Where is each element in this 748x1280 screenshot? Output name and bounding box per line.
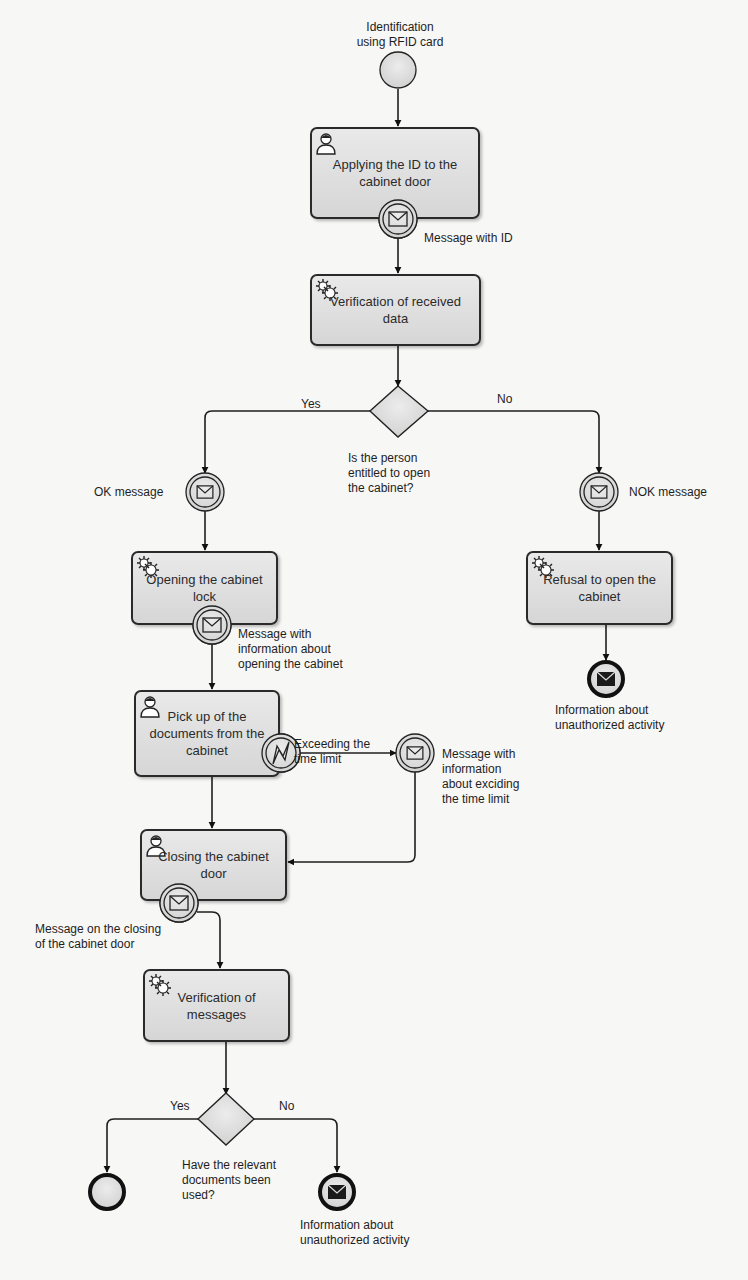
message-id-label: Message with ID [424,231,513,246]
task-apply-id[interactable]: Applying the ID to the cabinet door [310,127,480,219]
task-label: Applying the ID to the cabinet door [333,156,457,190]
flow-t6-to-t7 [197,912,220,968]
task-refusal[interactable]: Refusal to open the cabinet [526,551,673,625]
g2-yes-label: Yes [170,1099,190,1114]
gateway-documents-used[interactable] [198,1093,254,1145]
end-event-unauthorized-1[interactable] [589,662,623,696]
flow-msg-to-t6 [288,772,415,862]
task-verify-data[interactable]: Verification of received data [310,274,481,346]
start-event[interactable] [380,52,416,88]
task-label: Pick up of the documents from the cabine… [150,708,265,759]
message-event-nok[interactable] [580,473,618,511]
end-event-unauthorized-2[interactable] [320,1175,354,1209]
g2-question-label: Have the relevant documents been used? [182,1158,276,1203]
message-event-ok[interactable] [186,473,224,511]
ok-message-label: OK message [94,485,163,500]
exceed-message-label: Message with information about exciding … [442,747,519,807]
g1-yes-label: Yes [301,397,321,412]
user-icon [315,131,341,157]
task-label: Verification of messages [177,989,255,1023]
opening-message-label: Message with information about opening t… [238,627,343,672]
task-label: Closing the cabinet door [158,848,269,882]
g1-question-label: Is the person entitled to open the cabin… [348,451,430,496]
gateway-entitled[interactable] [370,386,428,437]
g2-no-label: No [279,1099,294,1114]
flow-g1-no [428,411,599,473]
end-unauthorized-2-label: Information about unauthorized activity [300,1218,409,1248]
task-label: Opening the cabinet lock [146,571,262,605]
nok-message-label: NOK message [629,485,707,500]
task-verify-messages[interactable]: Verification of messages [143,969,290,1042]
flow-g1-yes [205,411,370,473]
task-closing-door[interactable]: Closing the cabinet door [140,829,287,901]
task-open-lock[interactable]: Opening the cabinet lock [131,551,278,625]
message-event-exceed[interactable] [396,734,434,772]
task-label: Refusal to open the cabinet [543,571,656,605]
g1-no-label: No [497,392,512,407]
task-label: Verification of received data [330,293,461,327]
end-unauthorized-1-label: Information about unauthorized activity [555,703,664,733]
task-pick-up[interactable]: Pick up of the documents from the cabine… [134,690,280,777]
gear-icon [148,973,174,999]
start-event-label: Identification using RFID card [345,20,455,50]
end-event-plain[interactable] [90,1175,124,1209]
timer-label: Exceeding the time limit [294,737,370,767]
closing-message-label: Message on the closing of the cabinet do… [35,922,161,952]
